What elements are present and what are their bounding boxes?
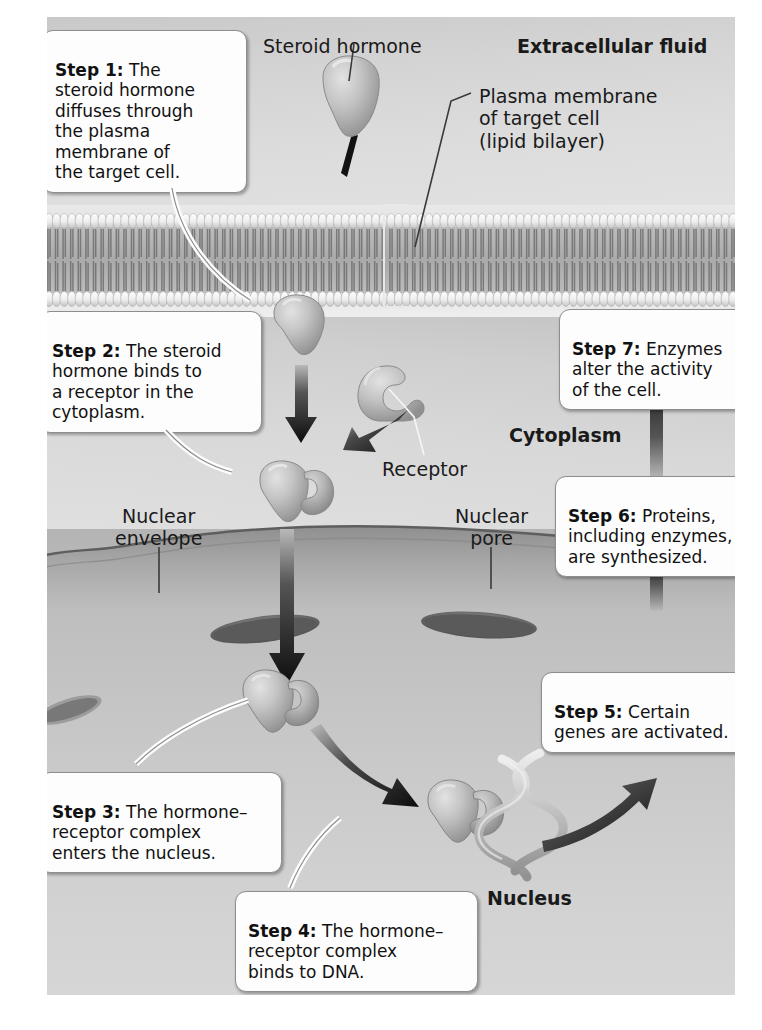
- step-3-number: Step 3:: [52, 802, 121, 822]
- label-nuclear-envelope: Nuclear envelope: [115, 505, 202, 550]
- callout-step-7: Step 7: Enzymes alter the activity of th…: [559, 309, 735, 410]
- label-receptor: Receptor: [382, 458, 467, 480]
- label-extracellular-fluid: Extracellular fluid: [517, 35, 707, 57]
- step-6-number: Step 6:: [568, 506, 637, 526]
- label-plasma-membrane: Plasma membrane of target cell (lipid bi…: [479, 85, 657, 152]
- callout-step-1: Step 1: The steroid hormone diffuses thr…: [47, 30, 247, 193]
- diagram-figure: Steroid hormone Extracellular fluid Plas…: [47, 17, 735, 995]
- step-5-number: Step 5:: [554, 702, 623, 722]
- step-2-number: Step 2:: [52, 341, 121, 361]
- step-7-number: Step 7:: [572, 339, 641, 359]
- step-1-number: Step 1:: [55, 60, 124, 80]
- label-nucleus: Nucleus: [487, 887, 572, 909]
- callout-step-2: Step 2: The steroid hormone binds to a r…: [47, 311, 262, 433]
- label-steroid-hormone: Steroid hormone: [263, 35, 422, 57]
- callout-step-5: Step 5: Certain genes are activated.: [541, 672, 735, 753]
- plasma-membrane-bilayer: [47, 205, 735, 317]
- label-nuclear-pore: Nuclear pore: [455, 505, 528, 550]
- step-4-number: Step 4:: [248, 921, 317, 941]
- label-cytoplasm: Cytoplasm: [509, 424, 622, 446]
- callout-step-6: Step 6: Proteins, including enzymes, are…: [555, 476, 735, 577]
- callout-step-3: Step 3: The hormone– receptor complex en…: [47, 772, 282, 873]
- callout-step-4: Step 4: The hormone– receptor complex bi…: [235, 891, 478, 992]
